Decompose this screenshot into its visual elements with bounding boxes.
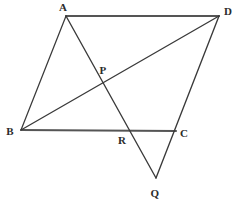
segment-bc <box>21 130 176 131</box>
vertex-label-r: R <box>118 135 126 146</box>
segment-dq <box>156 16 219 178</box>
vertex-label-q: Q <box>151 188 160 199</box>
segments-group <box>21 16 219 178</box>
vertex-label-p: P <box>100 65 107 76</box>
segment-ab <box>21 16 66 130</box>
geometry-canvas <box>0 0 238 204</box>
vertex-label-d: D <box>224 6 232 17</box>
vertex-label-b: B <box>6 126 14 137</box>
vertex-label-a: A <box>59 2 67 13</box>
vertex-label-c: C <box>180 128 188 139</box>
geometry-figure: ADBCPRQ <box>0 0 238 204</box>
